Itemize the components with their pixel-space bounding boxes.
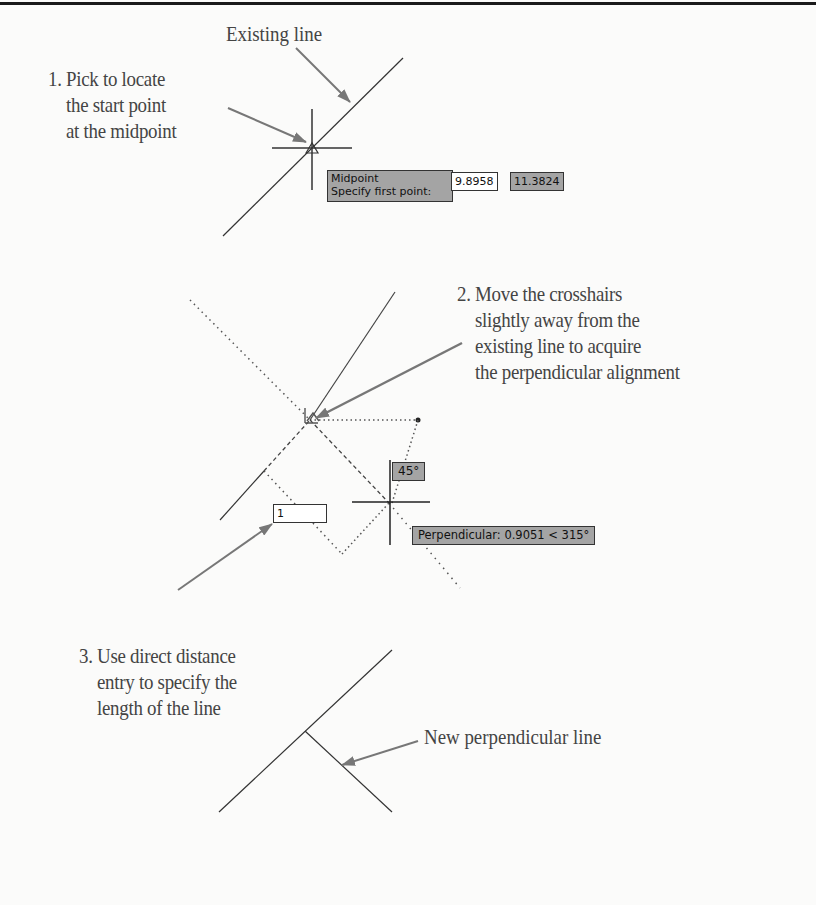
snap-tooltip: Midpoint Specify first point:: [327, 170, 453, 202]
step-2-line-3: existing line to acquire: [475, 333, 680, 359]
figure1: [223, 48, 403, 236]
step-1-line-3: at the midpoint: [66, 118, 176, 144]
step-1-line-1: Pick to locate: [66, 66, 176, 92]
step-1-line-2: the start point: [66, 92, 176, 118]
step-1-number: 1.: [48, 66, 62, 92]
step-2-callout: 2. Move the crosshairs slightly away fro…: [475, 281, 680, 385]
step-3-number: 3.: [79, 643, 93, 669]
step-3-callout: 3. Use direct distance entry to specify …: [97, 643, 237, 721]
step-2-line-1: Move the crosshairs: [475, 281, 680, 307]
step-3-line-2: entry to specify the: [97, 669, 237, 695]
existing-line-label: Existing line: [226, 22, 322, 47]
step-3-line-1: Use direct distance: [97, 643, 237, 669]
step-2-line-4: the perpendicular alignment: [475, 359, 680, 385]
step-2-number: 2.: [457, 281, 471, 307]
snap-type-label: Midpoint: [331, 172, 449, 185]
step-2-line-2: slightly away from the: [475, 307, 680, 333]
step-1-callout: 1. Pick to locate the start point at the…: [66, 66, 176, 144]
polar-angle-tooltip: 45°: [392, 462, 425, 481]
step-3-line-3: length of the line: [97, 695, 237, 721]
x-coordinate-input[interactable]: 9.8958: [451, 172, 498, 191]
perpendicular-tooltip: Perpendicular: 0.9051 < 315°: [412, 526, 595, 545]
new-perpendicular-line-label: New perpendicular line: [424, 725, 601, 750]
figure3: [219, 650, 418, 812]
y-coordinate-input[interactable]: 11.3824: [510, 172, 564, 191]
distance-input[interactable]: 1: [273, 504, 327, 523]
prompt-label: Specify first point:: [331, 185, 449, 198]
figure2: [178, 292, 462, 590]
